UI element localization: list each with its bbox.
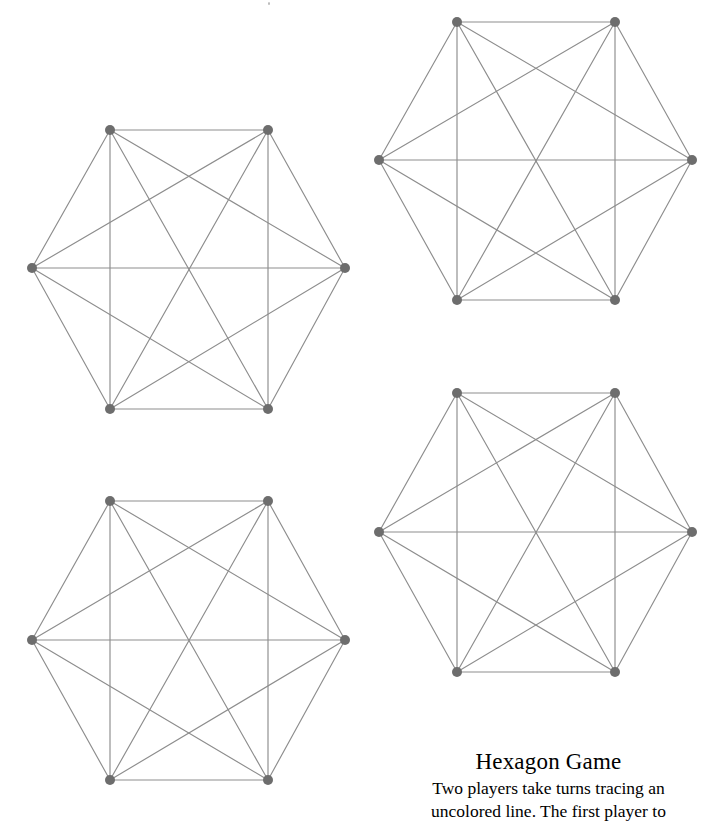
hexagon-vertex-top-left[interactable] [105, 496, 115, 506]
hexagon-edge-bottom-left-to-left[interactable] [32, 268, 110, 409]
hexagon-edge-top-right-to-left[interactable] [32, 130, 268, 268]
hexagon-edge-bottom-right-to-left[interactable] [379, 160, 615, 300]
hexagon-edge-right-to-bottom-left[interactable] [457, 160, 692, 300]
hexagon-vertex-top-left[interactable] [452, 17, 462, 27]
hexagon-edge-top-left-to-right[interactable] [110, 130, 345, 268]
hexagon-edge-right-to-bottom-right[interactable] [615, 532, 692, 672]
hexagon-board-top-left [0, 100, 380, 440]
hexagon-vertex-right[interactable] [687, 155, 697, 165]
hexagon-edge-right-to-bottom-right[interactable] [615, 160, 692, 300]
hexagon-vertex-bottom-left[interactable] [105, 775, 115, 785]
hexagon-vertex-right[interactable] [340, 263, 350, 273]
hexagon-edge-top-left-to-left[interactable] [32, 501, 110, 640]
hexagon-board-bottom-right [360, 370, 721, 700]
hexagon-vertex-left[interactable] [374, 155, 384, 165]
hexagon-edge-top-right-to-right[interactable] [268, 130, 345, 268]
hexagon-board-bottom-left [0, 470, 380, 810]
hexagon-vertex-left[interactable] [374, 527, 384, 537]
hexagon-vertex-top-left[interactable] [105, 125, 115, 135]
hexagon-vertex-right[interactable] [340, 635, 350, 645]
hexagon-vertex-top-right[interactable] [610, 17, 620, 27]
hexagon-edge-bottom-left-to-left[interactable] [379, 160, 457, 300]
hexagon-edge-bottom-left-to-left[interactable] [379, 532, 457, 672]
hexagon-edge-top-right-to-right[interactable] [615, 22, 692, 160]
hexagon-vertex-bottom-right[interactable] [263, 775, 273, 785]
hexagon-edge-top-left-to-left[interactable] [32, 130, 110, 268]
hexagon-edge-top-right-to-left[interactable] [379, 393, 615, 532]
hexagon-vertex-bottom-left[interactable] [452, 667, 462, 677]
hexagon-edge-right-to-bottom-right[interactable] [268, 640, 345, 780]
hexagon-edge-bottom-left-to-left[interactable] [32, 640, 110, 780]
instructions-line-2: uncolored line. The first player to [382, 800, 715, 823]
page-speck-artifact [268, 2, 270, 5]
edge-group [379, 393, 692, 672]
edge-group [32, 130, 345, 409]
hexagon-board-top-right [360, 0, 721, 330]
hexagon-edge-top-left-to-right[interactable] [457, 393, 692, 532]
hexagon-edge-top-right-to-right[interactable] [615, 393, 692, 532]
hexagon-edge-top-right-to-left[interactable] [32, 501, 268, 640]
hexagon-edge-bottom-right-to-left[interactable] [32, 640, 268, 780]
hexagon-edge-top-left-to-left[interactable] [379, 22, 457, 160]
hexagon-edge-top-left-to-right[interactable] [110, 501, 345, 640]
hexagon-vertex-bottom-right[interactable] [610, 295, 620, 305]
hexagon-edge-right-to-bottom-right[interactable] [268, 268, 345, 409]
worksheet-page: Hexagon Game Two players take turns trac… [0, 0, 721, 828]
page-title: Hexagon Game [376, 748, 721, 776]
hexagon-vertex-bottom-right[interactable] [610, 667, 620, 677]
hexagon-vertex-right[interactable] [687, 527, 697, 537]
hexagon-vertex-top-right[interactable] [263, 496, 273, 506]
caption-block: Hexagon Game Two players take turns trac… [376, 748, 721, 823]
hexagon-vertex-left[interactable] [27, 635, 37, 645]
hexagon-edge-right-to-bottom-left[interactable] [110, 640, 345, 780]
hexagon-vertex-top-right[interactable] [610, 388, 620, 398]
hexagon-edge-top-right-to-left[interactable] [379, 22, 615, 160]
hexagon-vertex-bottom-right[interactable] [263, 404, 273, 414]
hexagon-vertex-top-left[interactable] [452, 388, 462, 398]
edge-group [379, 22, 692, 300]
hexagon-vertex-top-right[interactable] [263, 125, 273, 135]
hexagon-edge-top-left-to-right[interactable] [457, 22, 692, 160]
edge-group [32, 501, 345, 780]
hexagon-vertex-bottom-left[interactable] [452, 295, 462, 305]
hexagon-edge-top-left-to-left[interactable] [379, 393, 457, 532]
hexagon-edge-right-to-bottom-left[interactable] [457, 532, 692, 672]
instructions-line-1: Two players take turns tracing an [382, 777, 715, 800]
hexagon-edge-top-right-to-right[interactable] [268, 501, 345, 640]
instructions-text: Two players take turns tracing anuncolor… [376, 777, 721, 823]
hexagon-edge-bottom-right-to-left[interactable] [379, 532, 615, 672]
hexagon-edge-bottom-right-to-left[interactable] [32, 268, 268, 409]
hexagon-vertex-left[interactable] [27, 263, 37, 273]
hexagon-edge-right-to-bottom-left[interactable] [110, 268, 345, 409]
hexagon-vertex-bottom-left[interactable] [105, 404, 115, 414]
